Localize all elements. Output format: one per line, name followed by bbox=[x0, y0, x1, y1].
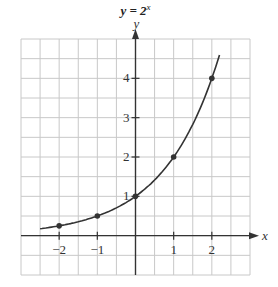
title-exponent: x bbox=[146, 2, 151, 12]
x-tick-label: −1 bbox=[90, 242, 104, 257]
x-tick-label: 1 bbox=[170, 242, 177, 257]
x-tick-label: 2 bbox=[209, 242, 216, 257]
data-point bbox=[95, 213, 101, 219]
data-point bbox=[171, 154, 177, 160]
y-tick-label: 4 bbox=[123, 70, 130, 85]
y-axis-label: y bbox=[132, 16, 140, 31]
x-axis-label: x bbox=[261, 228, 268, 243]
x-axis-arrow-icon bbox=[249, 232, 259, 239]
data-point bbox=[133, 194, 139, 200]
chart-title: y = 2x bbox=[118, 2, 150, 18]
title-base: y = 2 bbox=[118, 3, 147, 18]
exponential-chart: −2−1121234 x y y = 2x bbox=[0, 0, 278, 287]
y-tick-label: 2 bbox=[123, 149, 130, 164]
data-point bbox=[56, 223, 62, 229]
data-point bbox=[209, 76, 215, 82]
y-tick-label: 3 bbox=[123, 110, 130, 125]
x-tick-label: −2 bbox=[52, 242, 66, 257]
